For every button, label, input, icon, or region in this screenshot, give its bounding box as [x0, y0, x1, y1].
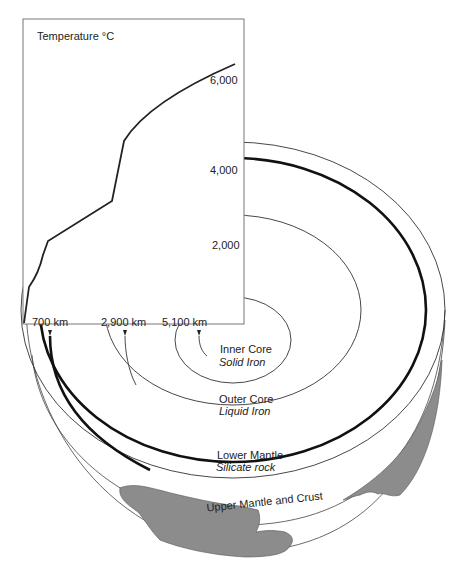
earth-diagram: Temperature °C 6,000 4,000 2,000 700 km …	[0, 0, 472, 571]
x-tick-2900km: 2,900 km	[101, 316, 146, 328]
outer-core-label: Outer Core	[219, 393, 273, 405]
x-tick-5100km: 5,100 km	[162, 316, 207, 328]
landmass-right	[343, 360, 442, 500]
leader-line-2900	[125, 336, 136, 385]
y-tick-2000: 2,000	[212, 239, 240, 251]
lower-mantle-material: Silicate rock	[216, 461, 276, 473]
tick-arrow-2900	[123, 330, 127, 336]
inner-core-label: Inner Core	[220, 343, 272, 355]
leader-line-700	[50, 336, 150, 470]
lower-mantle-label: Lower Mantle	[217, 449, 283, 461]
tick-arrow-5100	[197, 330, 201, 336]
y-tick-4000: 4,000	[210, 164, 238, 176]
x-tick-700km: 700 km	[32, 316, 68, 328]
inner-core-material: Solid Iron	[219, 356, 265, 368]
y-tick-6000: 6,000	[210, 74, 238, 86]
outer-core-material: Liquid Iron	[219, 405, 270, 417]
y-axis-title: Temperature °C	[37, 30, 114, 42]
upper-mantle-crust-label: Upper Mantle and Crust	[206, 489, 323, 513]
leader-line-5100	[199, 336, 207, 356]
tick-arrow-700	[48, 330, 52, 336]
